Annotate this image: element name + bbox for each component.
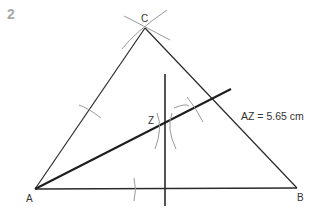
arc-z-1 [155,113,160,149]
label-b: B [297,192,304,203]
measurement-az: AZ = 5.65 cm [241,110,304,122]
label-c: C [141,13,148,24]
arc-angle-1 [174,105,189,108]
side-ab [35,188,297,189]
label-z: Z [148,115,154,126]
side-ac [35,28,145,189]
arc-ab [134,178,136,201]
arc-ac [79,105,101,118]
construction-diagram: 2 C A B Z AZ = 5.65 cm [0,0,315,224]
label-a: A [26,193,33,204]
side-bc [145,28,297,188]
line-az [35,89,231,189]
